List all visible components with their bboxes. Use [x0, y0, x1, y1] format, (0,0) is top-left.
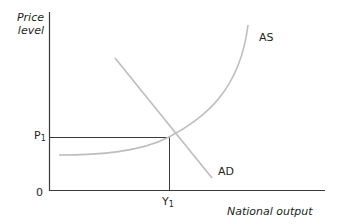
- y1-letter: Y: [162, 195, 169, 208]
- origin-label: 0: [36, 187, 43, 198]
- as-curve-label: AS: [259, 32, 274, 43]
- as-curve: [59, 25, 248, 155]
- ad-as-diagram: [0, 0, 348, 224]
- ad-curve-label: AD: [218, 166, 234, 177]
- y-axis-title: Price level: [4, 11, 44, 37]
- p1-label: P1: [34, 130, 46, 141]
- y-axis-title-line1: Price: [4, 11, 44, 24]
- p1-letter: P: [34, 129, 41, 142]
- x-axis-title: National output: [227, 206, 313, 217]
- y1-subscript: 1: [169, 200, 174, 209]
- y-axis-title-line2: level: [4, 24, 44, 37]
- y1-label: Y1: [162, 196, 174, 207]
- p1-subscript: 1: [41, 134, 46, 143]
